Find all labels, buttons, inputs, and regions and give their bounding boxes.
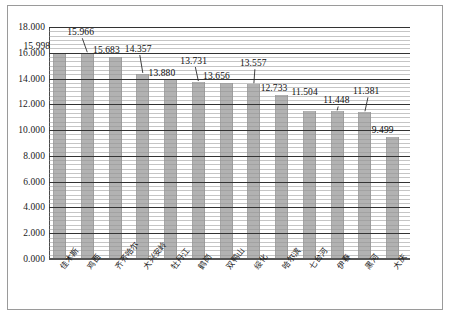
bar-value-label: 14.357 — [125, 44, 152, 54]
bar — [386, 137, 399, 259]
bar — [81, 53, 94, 259]
y-axis-tick-label: 12.000 — [0, 99, 45, 109]
y-axis-tick-label: 14.000 — [0, 74, 45, 84]
bar — [275, 95, 288, 259]
y-axis-tick-label: 6.000 — [0, 177, 45, 187]
bar — [303, 111, 316, 259]
y-axis-tick-label: 2.000 — [0, 228, 45, 238]
plot-area — [49, 27, 410, 259]
bar-value-label: 15.683 — [93, 45, 120, 55]
y-axis-tick-label: 4.000 — [0, 202, 45, 212]
bar-value-label: 13.656 — [203, 71, 230, 81]
bar — [109, 57, 122, 259]
y-axis-tick-label: 0.000 — [0, 254, 45, 264]
bar — [220, 83, 233, 259]
bar-value-label: 13.557 — [240, 58, 267, 68]
bar-value-label: 11.504 — [291, 87, 317, 97]
bar — [53, 53, 66, 259]
bar-value-label: 15.998 — [24, 41, 51, 51]
bar-value-label: 11.381 — [353, 86, 379, 96]
bar — [192, 82, 205, 259]
y-axis-tick-label: 10.000 — [0, 125, 45, 135]
bar-value-label: 13.731 — [180, 56, 207, 66]
bar — [247, 84, 260, 259]
bar — [331, 111, 344, 259]
bar-value-label: 12.733 — [261, 83, 288, 93]
bar-chart: 0.0002.0004.0006.0008.00010.00012.00014.… — [0, 0, 451, 321]
bar — [136, 74, 149, 259]
bar-value-label: 11.448 — [323, 95, 349, 105]
bar-value-label: 13.880 — [149, 68, 176, 78]
y-axis-tick-label: 18.000 — [0, 22, 45, 32]
bar — [164, 80, 177, 259]
bar — [358, 112, 371, 259]
y-axis-tick-label: 8.000 — [0, 151, 45, 161]
bar-series — [49, 27, 410, 259]
bar-value-label: 9.499 — [372, 125, 394, 135]
bar-value-label: 15.966 — [67, 27, 94, 37]
